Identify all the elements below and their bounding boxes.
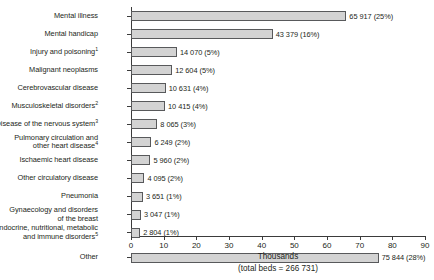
chart-row: Pulmonary circulation andother heart dis… (0, 133, 429, 151)
category-label: Other (0, 249, 98, 267)
category-label: Cerebrovascular disease (0, 79, 98, 97)
category-label: Endocrine, nutritional, metabolicand imm… (0, 224, 98, 242)
bar (131, 119, 157, 129)
chart-row: Cerebrovascular disease10 631 (4%) (0, 79, 429, 97)
x-axis-tick-label: 0 (116, 241, 146, 251)
bar (131, 228, 140, 238)
x-axis-tick (327, 236, 328, 240)
bar-value-label: 2 804 (1%) (143, 228, 179, 238)
bar (131, 29, 273, 39)
category-label: Malignant neoplasms (0, 61, 98, 79)
bar-value-label: 14 070 (5%) (180, 48, 220, 58)
x-axis-tick-label: 10 (149, 241, 179, 251)
category-label: Mental illness (0, 7, 98, 25)
chart-row: Disease of the nervous system38 065 (3%) (0, 115, 429, 133)
category-label-line: Malignant neoplasms (29, 66, 98, 75)
bar-value-label: 43 379 (16%) (276, 30, 320, 40)
category-label: Ischaemic heart disease (0, 151, 98, 169)
category-label-line: Musculoskeletal disorders2 (11, 102, 98, 111)
category-label: Pulmonary circulation andother heart dis… (0, 133, 98, 151)
category-label-line: Ischaemic heart disease (19, 156, 98, 165)
x-axis-tick (262, 236, 263, 240)
category-label: Mental handicap (0, 25, 98, 43)
x-axis-tick-label: 80 (377, 241, 407, 251)
bar (131, 11, 346, 21)
bar-value-label: 3 651 (1%) (146, 192, 182, 202)
x-axis-tick (131, 236, 132, 240)
x-axis-tick-label: 20 (181, 241, 211, 251)
category-label-line: Mental handicap (45, 30, 99, 39)
category-label: Other circulatory disease (0, 169, 98, 187)
x-axis-tick (392, 236, 393, 240)
chart-total-note: (total beds = 266 731) (131, 264, 425, 274)
x-axis-tick-label: 90 (410, 241, 434, 251)
category-label: Disease of the nervous system3 (0, 115, 98, 133)
bar-value-label: 10 415 (4%) (168, 102, 208, 112)
x-axis-tick (164, 236, 165, 240)
category-label: Injury and poisoning1 (0, 43, 98, 61)
chart-row: Injury and poisoning114 070 (5%) (0, 43, 429, 61)
x-axis-tick-label: 30 (214, 241, 244, 251)
category-label: Pneumonia (0, 188, 98, 206)
bar (131, 155, 150, 165)
chart-row: Ischaemic heart disease5 960 (2%) (0, 151, 429, 169)
category-label-line: Disease of the nervous system3 (0, 120, 98, 129)
category-label: Musculoskeletal disorders2 (0, 97, 98, 115)
bar-value-label: 5 960 (2%) (153, 156, 189, 166)
bar-value-label: 6 249 (2%) (154, 138, 190, 148)
chart-row: Mental illness65 917 (25%) (0, 7, 429, 25)
chart-row: Other circulatory disease4 095 (2%) (0, 169, 429, 187)
x-axis-tick-label: 50 (279, 241, 309, 251)
footnote-marker: 1 (95, 45, 98, 51)
footnote-marker: 2 (95, 99, 98, 105)
x-axis-tick (425, 236, 426, 240)
chart-row: Mental handicap43 379 (16%) (0, 25, 429, 43)
category-label-line: Cerebrovascular disease (17, 84, 98, 93)
bar (131, 83, 166, 93)
chart-row: Gynaecology and disordersof the breast3 … (0, 206, 429, 224)
category-label-line: Injury and poisoning1 (30, 48, 98, 57)
x-axis-tick-label: 70 (345, 241, 375, 251)
x-axis-tick (196, 236, 197, 240)
chart-row: Pneumonia3 651 (1%) (0, 188, 429, 206)
bar (131, 137, 151, 147)
bar (131, 173, 144, 183)
x-axis-tick (229, 236, 230, 240)
category-label-line: and immune disorders5 (23, 233, 98, 242)
bar (131, 47, 177, 57)
bar (131, 65, 172, 75)
bar-value-label: 3 047 (1%) (144, 210, 180, 220)
category-label-line: of the breast (58, 215, 98, 224)
footnote-marker: 3 (95, 118, 98, 124)
category-label-line: Other (80, 253, 98, 262)
footnote-marker: 5 (95, 230, 98, 236)
x-axis-tick (294, 236, 295, 240)
footnote-marker: 4 (95, 140, 98, 146)
chart-row: Endocrine, nutritional, metabolicand imm… (0, 224, 429, 242)
category-label-line: Mental illness (54, 12, 98, 21)
chart-row: Malignant neoplasms12 604 (5%) (0, 61, 429, 79)
x-axis-tick (360, 236, 361, 240)
bar-value-label: 8 065 (3%) (160, 120, 196, 130)
bar-value-label: 65 917 (25%) (349, 12, 393, 22)
chart-row: Musculoskeletal disorders210 415 (4%) (0, 97, 429, 115)
category-label: Gynaecology and disordersof the breast (0, 206, 98, 224)
bar (131, 101, 165, 111)
category-label-line: Pneumonia (61, 192, 98, 201)
x-axis-tick-label: 60 (312, 241, 342, 251)
bar-value-label: 10 631 (4%) (169, 84, 209, 94)
x-axis-title: Thousands (131, 252, 425, 262)
bar-value-label: 12 604 (5%) (175, 66, 215, 76)
bar-value-label: 4 095 (2%) (147, 174, 183, 184)
category-label-line: Other circulatory disease (18, 174, 99, 183)
bar (131, 210, 141, 220)
x-axis-tick-label: 40 (247, 241, 277, 251)
bar (131, 192, 143, 202)
category-label-line: other heart disease4 (33, 142, 98, 151)
